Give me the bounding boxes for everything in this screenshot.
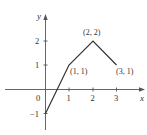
origin-label: 0	[36, 93, 40, 103]
graph-line	[46, 41, 117, 114]
point-label-1-1: (1, 1)	[70, 67, 88, 76]
point-label-3-1: (3, 1)	[116, 67, 134, 76]
y-tick-label-2: 2	[35, 36, 39, 46]
x-axis-label: x	[139, 93, 144, 103]
y-tick-label-minus-1: −1	[30, 109, 39, 119]
y-axis-arrow-icon	[43, 14, 47, 20]
piecewise-linear-graph: y x 0 1 2 3 2 1 −1 (1, 1) (2, 2) (3, 1)	[0, 0, 147, 135]
y-tick-label-1: 1	[35, 60, 39, 70]
y-axis-label: y	[36, 11, 41, 21]
x-tick-label-1: 1	[67, 93, 71, 103]
x-tick-label-3: 3	[114, 93, 118, 103]
x-axis-arrow-icon	[139, 87, 145, 91]
x-tick-label-2: 2	[91, 93, 95, 103]
point-label-2-2: (2, 2)	[83, 28, 101, 37]
